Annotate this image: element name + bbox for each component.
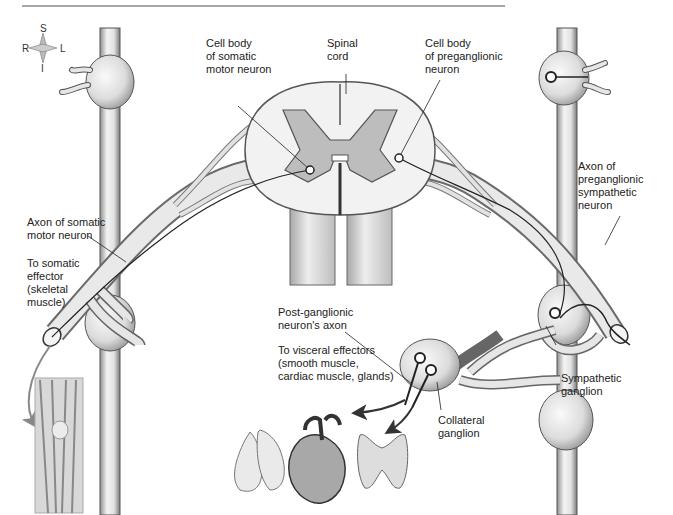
thyroid-gland [358, 435, 408, 489]
heart [289, 416, 345, 503]
orientation-compass-icon [29, 33, 57, 63]
spinal-cord [245, 82, 435, 285]
label-to-visceral-effectors: To visceral effectors (smooth muscle, ca… [278, 344, 394, 383]
label-spinal-cord: Spinal cord [327, 37, 358, 63]
label-postganglionic-axon: Post-ganglionic neuron's axon [278, 306, 353, 332]
lungs [235, 430, 285, 491]
compass-right: R [22, 43, 29, 54]
label-axon-somatic: Axon of somatic motor neuron [27, 216, 105, 242]
label-cell-body-somatic: Cell body of somatic motor neuron [206, 37, 271, 76]
diagram-svg [0, 0, 673, 515]
diagram-stage: S I R L Cell body of somatic motor neuro… [0, 0, 673, 515]
compass-inferior: I [41, 63, 44, 74]
skeletal-muscle-knee [35, 378, 83, 513]
compass-left: L [60, 43, 66, 54]
label-collateral-ganglion: Collateral ganglion [438, 414, 484, 440]
compass-superior: S [40, 23, 47, 34]
label-to-somatic-effector: To somatic effector (skeletal muscle) [27, 257, 80, 309]
label-sympathetic-ganglion: Sympathetic ganglion [561, 372, 622, 398]
label-cell-body-preganglionic: Cell body of preganglionic neuron [425, 37, 503, 76]
label-axon-preganglionic: Axon of preganglionic sympathetic neuron [578, 160, 643, 212]
